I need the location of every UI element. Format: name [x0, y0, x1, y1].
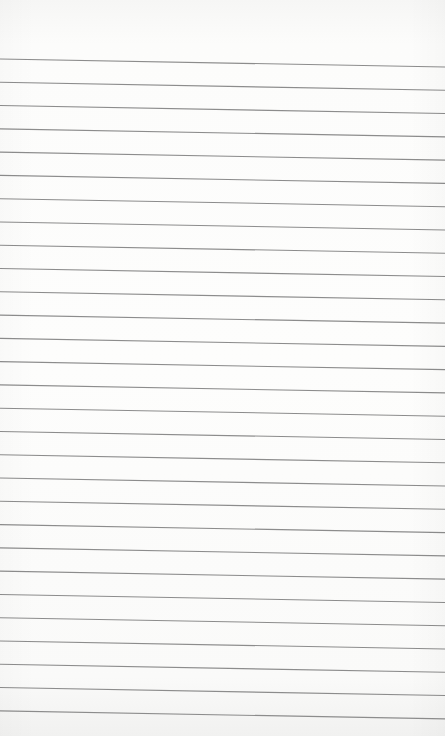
ruled-line [0, 641, 445, 649]
ruled-line [0, 82, 445, 90]
ruled-line [0, 152, 445, 160]
ruled-line [0, 385, 445, 393]
ruled-line [0, 455, 445, 463]
ruled-line [0, 478, 445, 486]
ruled-line [0, 59, 445, 67]
ruled-line [0, 199, 445, 207]
ruled-line [0, 175, 445, 183]
ruled-line [0, 269, 445, 277]
ruled-line [0, 338, 445, 346]
ruled-lines [0, 0, 445, 736]
ruled-line [0, 408, 445, 416]
ruled-line [0, 664, 445, 672]
ruled-line [0, 362, 445, 370]
ruled-line [0, 315, 445, 323]
ruled-line [0, 618, 445, 626]
ruled-line [0, 594, 445, 602]
ruled-line [0, 688, 445, 696]
ruled-line [0, 571, 445, 579]
ruled-line [0, 106, 445, 114]
ruled-line [0, 525, 445, 533]
ruled-line [0, 245, 445, 253]
ruled-line [0, 129, 445, 137]
ruled-line [0, 292, 445, 300]
ruled-line [0, 548, 445, 556]
ruled-paper [0, 0, 445, 736]
ruled-line [0, 431, 445, 439]
ruled-line [0, 501, 445, 509]
ruled-line [0, 711, 445, 719]
ruled-line [0, 222, 445, 230]
